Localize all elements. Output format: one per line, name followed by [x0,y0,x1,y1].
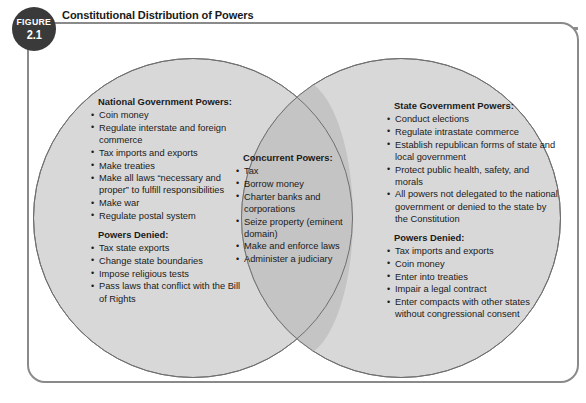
national-government-powers-block: National Government Powers:Coin moneyReg… [91,96,243,305]
section-heading: Concurrent Powers: [243,152,354,164]
figure-title: Constitutional Distribution of Powers [62,9,253,21]
power-list-item: Regulate interstate and foreign commerce [91,122,243,146]
section-heading: State Government Powers: [394,100,559,112]
power-list-item: Enter compacts with other states without… [387,296,559,320]
power-list-item: Regulate postal system [91,210,243,222]
power-list-item: Tax imports and exports [91,147,243,159]
power-list-item: Make treaties [91,160,243,172]
power-list-item: Impose religious tests [91,268,243,280]
power-list-item: Administer a judiciary [236,253,354,265]
power-list: Tax state exportsChange state boundaries… [91,242,243,305]
power-list-item: Protect public health, safety, and moral… [387,164,559,188]
figure-badge-number: 2.1 [26,29,41,41]
section-heading: National Government Powers: [98,96,243,108]
power-list-item: Regulate intrastate commerce [387,126,559,138]
power-list-item: Make and enforce laws [236,240,354,252]
power-list-item: All powers not delegated to the national… [387,188,559,225]
concurrent-powers-block: Concurrent Powers:TaxBorrow moneyCharter… [236,152,354,266]
power-list-item: Establish republican forms of state and … [387,139,559,163]
venn-diagram-frame: National Government Powers:Coin moneyReg… [27,22,579,383]
power-list-item: Coin money [91,109,243,121]
power-list-item: Charter banks and corporations [236,191,354,215]
figure-badge-label: FIGURE [17,17,52,27]
power-list: TaxBorrow moneyCharter banks and corpora… [236,165,354,265]
power-list-item: Tax [236,165,354,177]
power-list-item: Borrow money [236,178,354,190]
power-list-item: Conduct elections [387,113,559,125]
section-heading: Powers Denied: [98,229,243,241]
power-list-item: Enter into treaties [387,271,559,283]
power-list: Conduct electionsRegulate intrastate com… [387,113,559,225]
section-heading: Powers Denied: [394,232,559,244]
power-list: Tax imports and exportsCoin moneyEnter i… [387,245,559,320]
power-list-item: Change state boundaries [91,255,243,267]
state-government-powers-block: State Government Powers:Conduct election… [387,100,559,321]
power-list-item: Make all laws “necessary and proper” to … [91,172,243,196]
power-list-item: Coin money [387,258,559,270]
power-list-item: Impair a legal contract [387,283,559,295]
power-list-item: Tax imports and exports [387,245,559,257]
power-list-item: Seize property (eminent domain) [236,216,354,240]
figure-number-badge: FIGURE 2.1 [12,7,56,51]
power-list-item: Make war [91,197,243,209]
power-list: Coin moneyRegulate interstate and foreig… [91,109,243,222]
power-list-item: Tax state exports [91,242,243,254]
power-list-item: Pass laws that conflict with the Bill of… [91,280,243,304]
